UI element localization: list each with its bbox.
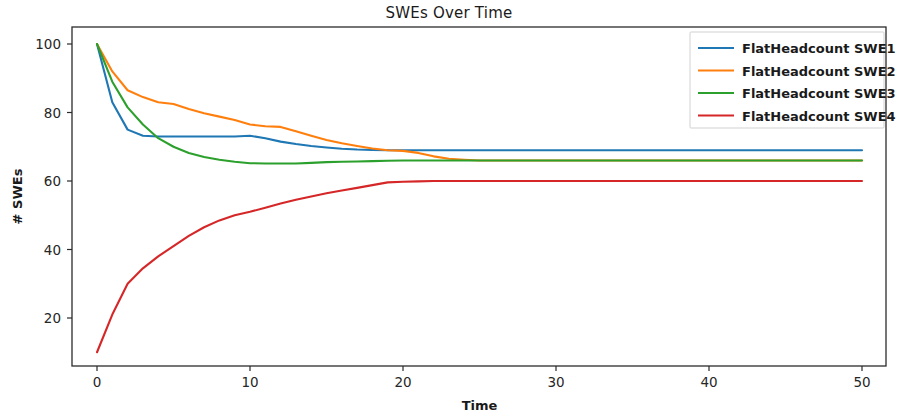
y-tick-label: 60	[44, 173, 61, 189]
x-tick-label: 40	[700, 374, 717, 390]
x-tick-label: 0	[93, 374, 102, 390]
legend-label-4: FlatHeadcount SWE4	[742, 109, 896, 124]
x-tick-label: 30	[547, 374, 564, 390]
chart-figure: SWEs Over Time 0102030405020406080100Tim…	[0, 0, 898, 417]
y-tick-label: 100	[35, 36, 61, 52]
series-line-4	[97, 181, 862, 352]
y-tick-label: 40	[44, 242, 61, 258]
legend-label-1: FlatHeadcount SWE1	[742, 41, 896, 56]
legend-label-2: FlatHeadcount SWE2	[742, 64, 896, 79]
plot-canvas: 0102030405020406080100Time# SWEs FlatHea…	[0, 0, 898, 417]
y-axis-title: # SWEs	[10, 168, 25, 224]
x-tick-label: 10	[241, 374, 258, 390]
y-tick-label: 80	[44, 105, 61, 121]
legend-label-3: FlatHeadcount SWE3	[742, 86, 896, 101]
y-tick-label: 20	[44, 310, 61, 326]
x-axis-title: Time	[462, 398, 498, 413]
x-tick-label: 20	[394, 374, 411, 390]
chart-legend: FlatHeadcount SWE1FlatHeadcount SWE2Flat…	[690, 32, 896, 128]
x-tick-label: 50	[853, 374, 870, 390]
